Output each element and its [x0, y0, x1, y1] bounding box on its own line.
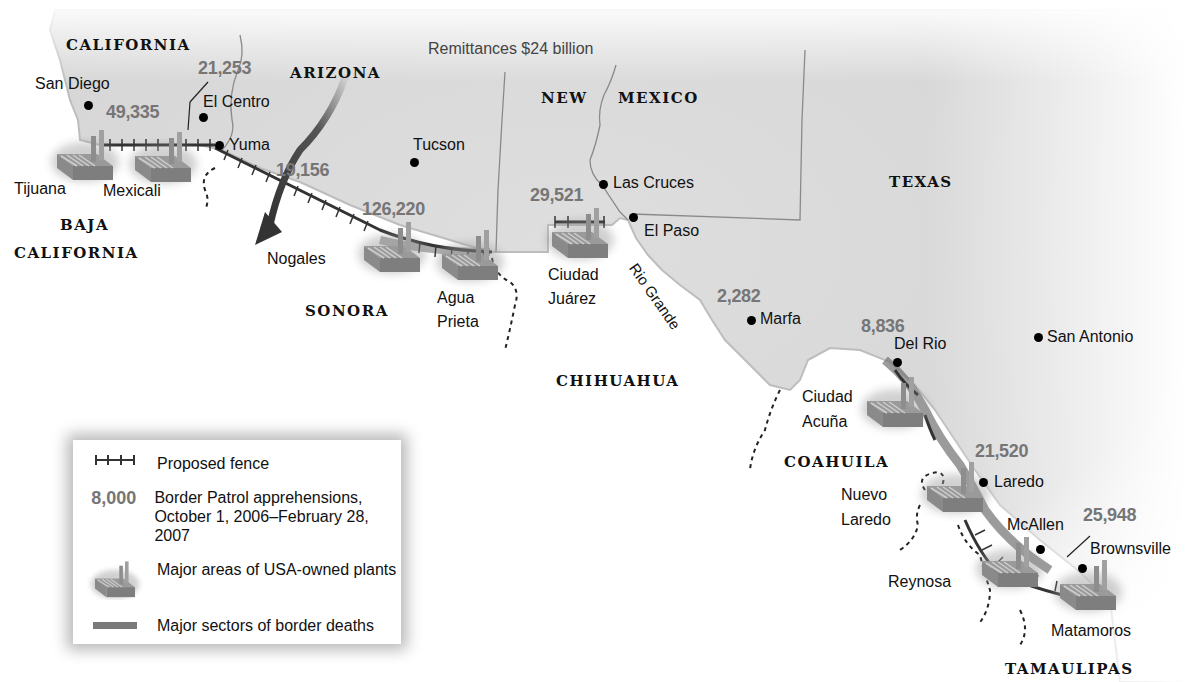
apprehensions-el-centro: 21,253: [198, 58, 251, 79]
legend-deaths-label: Major sectors of border deaths: [157, 616, 374, 635]
city-dot-yuma: [215, 141, 224, 150]
city-label-tucson: Tucson: [413, 136, 465, 154]
city-label-laredo: Laredo: [994, 473, 1044, 491]
city-label-el-centro: El Centro: [203, 93, 270, 111]
city-label-matamoros: Matamoros: [1051, 622, 1131, 640]
city-label-brownsville: Brownsville: [1090, 540, 1171, 558]
city-dot-marfa: [747, 316, 756, 325]
city-label-prieta: Prieta: [437, 313, 479, 331]
city-label-ciudad-acuna-2: Acuña: [802, 413, 847, 431]
city-dot-el-centro: [199, 113, 208, 122]
apprehensions-el-paso: 29,521: [530, 185, 583, 206]
legend-fence-label: Proposed fence: [157, 454, 269, 473]
city-label-reynosa: Reynosa: [888, 573, 951, 591]
city-label-yuma: Yuma: [229, 136, 270, 154]
city-label-ciudad-juarez-2: Juárez: [548, 290, 596, 308]
city-label-marfa: Marfa: [760, 310, 801, 328]
city-dot-tucson: [410, 158, 419, 167]
city-dot-del-rio: [893, 358, 902, 367]
city-label-nuevo-laredo-2: Laredo: [841, 511, 891, 529]
legend-row-plants: Major areas of USA-owned plants: [73, 560, 396, 600]
state-label-chihuahua: CHIHUAHUA: [556, 372, 680, 390]
city-label-el-paso: El Paso: [644, 222, 699, 240]
state-label-texas: TEXAS: [889, 173, 953, 191]
factory-icon: [73, 560, 157, 600]
city-label-tijuana: Tijuana: [14, 180, 66, 198]
death-sector-bar-icon: [73, 616, 157, 629]
state-label-tamaulipas: TAMAULIPAS: [1005, 660, 1134, 678]
legend-apprehensions-line2: October 1, 2006–February 28, 2007: [154, 507, 401, 545]
city-dot-el-paso: [629, 213, 638, 222]
city-label-san-diego: San Diego: [35, 75, 110, 93]
fence-icon: [73, 454, 157, 466]
apprehensions-san-diego: 49,335: [106, 102, 159, 123]
remittances-label: Remittances $24 billion: [428, 40, 593, 58]
apprehensions-del-rio: 8,836: [861, 316, 905, 337]
legend-number-sample: 8,000: [91, 488, 136, 509]
legend-row-fence: Proposed fence: [73, 454, 269, 473]
city-label-ciudad-acuna-1: Ciudad: [802, 388, 853, 406]
state-label-california: CALIFORNIA: [66, 36, 191, 54]
legend-plants-label: Major areas of USA-owned plants: [157, 560, 396, 579]
city-label-nogales: Nogales: [267, 250, 326, 268]
city-label-ciudad-juarez-1: Ciudad: [548, 266, 599, 284]
legend-row-apprehensions: 8,000 Border Patrol apprehensions, Octob…: [73, 488, 401, 545]
apprehensions-marfa: 2,282: [717, 286, 761, 307]
city-dot-san-antonio: [1034, 333, 1043, 342]
city-label-mcallen: McAllen: [1007, 516, 1064, 534]
state-label-arizona: ARIZONA: [290, 64, 381, 82]
city-label-nuevo-laredo-1: Nuevo: [841, 486, 887, 504]
legend: Proposed fence 8,000 Border Patrol appre…: [73, 440, 401, 644]
apprehensions-rio-grande-valley: 25,948: [1083, 505, 1136, 526]
city-dot-las-cruces: [599, 180, 608, 189]
city-dot-laredo: [979, 478, 988, 487]
apprehensions-tucson: 126,220: [362, 199, 425, 220]
city-label-mexicali: Mexicali: [103, 182, 161, 200]
apprehensions-laredo: 21,520: [975, 441, 1028, 462]
state-label-mexico: MEXICO: [618, 89, 699, 107]
legend-apprehensions-line1: Border Patrol apprehensions,: [154, 488, 401, 507]
state-label-sonora: SONORA: [305, 302, 389, 320]
city-dot-san-diego: [84, 101, 93, 110]
legend-row-deaths: Major sectors of border deaths: [73, 616, 374, 635]
city-dot-mcallen: [1036, 545, 1045, 554]
apprehensions-yuma: 19,156: [276, 160, 329, 181]
state-label-coahuila: COAHUILA: [784, 453, 889, 471]
city-label-agua: Agua: [437, 289, 474, 307]
state-label-baja-california: CALIFORNIA: [14, 244, 139, 262]
state-label-baja: BAJA: [60, 216, 109, 234]
city-label-san-antonio: San Antonio: [1047, 328, 1133, 346]
city-label-las-cruces: Las Cruces: [613, 174, 694, 192]
city-dot-brownsville: [1078, 564, 1087, 573]
city-label-del-rio: Del Rio: [894, 335, 946, 353]
state-label-new: NEW: [541, 89, 588, 107]
